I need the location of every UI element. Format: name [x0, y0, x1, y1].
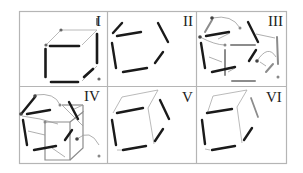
panel-label-VI: VI	[266, 89, 282, 105]
panel-label-II: II	[183, 13, 193, 29]
panel-label-IV: IV	[84, 88, 100, 104]
panel-grid	[20, 12, 287, 164]
panel-II: II	[112, 13, 193, 72]
panel-label-III: III	[268, 13, 283, 29]
panel-I: I	[44, 13, 101, 82]
panel-IV: IV	[19, 88, 100, 160]
panel-label-V: V	[182, 89, 193, 105]
panel-V: V	[112, 89, 193, 150]
cube-reconstruction-figure: I II	[0, 0, 303, 173]
panel-VI: VI	[202, 89, 282, 150]
panel-III: III	[198, 13, 283, 81]
